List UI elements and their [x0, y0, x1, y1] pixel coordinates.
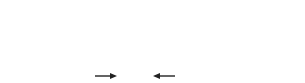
- tight-binding-wavefunction-diagram: [0, 0, 305, 83]
- lattice-spacing-indicator: [95, 73, 175, 79]
- right-arrowhead-icon: [110, 73, 117, 79]
- left-arrowhead-icon: [153, 73, 160, 79]
